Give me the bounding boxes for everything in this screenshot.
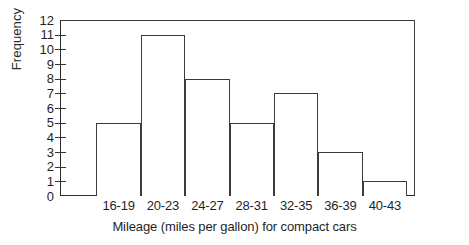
y-axis-tick-mark — [55, 93, 66, 94]
y-axis-tick-mark — [55, 123, 66, 124]
y-axis-tick-label: 9 — [28, 58, 54, 71]
y-axis-tick-label: 7 — [28, 87, 54, 100]
x-axis-tick-label: 16-19 — [96, 198, 140, 213]
y-axis-tick-mark — [55, 167, 66, 168]
x-axis-title: Mileage (miles per gallon) for compact c… — [0, 219, 469, 234]
y-axis-tick-label: 3 — [28, 146, 54, 159]
y-axis-tick-mark — [55, 79, 66, 80]
y-axis-tick-mark — [55, 49, 66, 50]
histogram-bar — [96, 123, 140, 196]
y-axis-tick-label: 1 — [28, 175, 54, 188]
x-axis-tick-label: 40-43 — [363, 198, 407, 213]
histogram-bar — [185, 79, 229, 196]
y-axis-tick-label: 4 — [28, 131, 54, 144]
histogram-bar — [274, 93, 318, 196]
histogram-bar — [230, 123, 274, 196]
y-axis-tick-label: 12 — [28, 14, 54, 27]
histogram-bar — [141, 35, 185, 196]
x-axis-tick-label: 32-35 — [274, 198, 318, 213]
y-axis-tick-label: 6 — [28, 102, 54, 115]
x-axis-tick-label: 36-39 — [318, 198, 362, 213]
x-axis-tick-label: 20-23 — [141, 198, 185, 213]
y-axis-tick-mark — [55, 35, 66, 36]
y-axis-tick-mark — [55, 108, 66, 109]
y-axis-tick-label: 5 — [28, 116, 54, 129]
x-axis-tick-label: 24-27 — [185, 198, 229, 213]
y-axis-tick-label: 2 — [28, 160, 54, 173]
x-axis-tick-label-group: 16-1920-2324-2728-3132-3536-3940-43 — [60, 198, 415, 216]
y-axis-tick-label: 11 — [28, 28, 54, 41]
histogram-bar — [318, 152, 362, 196]
y-axis-tick-mark — [55, 152, 66, 153]
y-axis-tick-label: 0 — [28, 190, 54, 203]
y-axis-tick-label: 8 — [28, 72, 54, 85]
histogram-bar — [363, 181, 407, 196]
y-axis-tick-mark — [55, 137, 66, 138]
y-axis-title: Frequency — [9, 0, 27, 94]
y-axis-tick-label-group: 0123456789101112 — [28, 13, 54, 197]
y-axis-tick-label: 10 — [28, 43, 54, 56]
bar-group — [60, 20, 415, 196]
x-axis-tick-label: 28-31 — [230, 198, 274, 213]
y-axis-tick-mark — [55, 64, 66, 65]
histogram-figure: Frequency 0123456789101112 16-1920-2324-… — [0, 0, 469, 245]
y-axis-tick-mark — [55, 181, 66, 182]
